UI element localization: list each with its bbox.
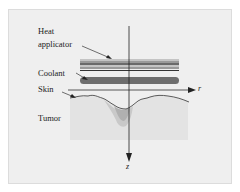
hyperthermia-diagram [0, 0, 240, 192]
label-applicator: applicator [38, 40, 72, 49]
coolant-layer [80, 77, 179, 84]
z-axis-arrowhead [126, 153, 132, 162]
label-coolant: Coolant [38, 69, 65, 78]
heat-applicator [80, 59, 179, 61]
label-skin: Skin [38, 85, 54, 94]
axis-label-r: r [198, 84, 201, 93]
label-heat: Heat [38, 27, 54, 36]
r-axis-arrowhead [188, 87, 196, 93]
axis-label-z: z [126, 162, 129, 171]
heat-leader [82, 46, 110, 58]
label-tumor: Tumor [38, 114, 61, 123]
